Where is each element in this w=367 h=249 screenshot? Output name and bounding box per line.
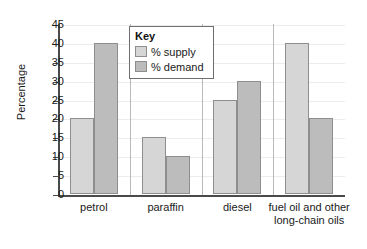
bar-supply — [70, 118, 94, 194]
category-separator — [273, 24, 274, 195]
y-tick-label-20: 20 — [24, 113, 64, 124]
bar-demand — [309, 118, 333, 194]
legend-title: Key — [135, 30, 208, 43]
y-tick-label-0: 0 — [24, 189, 64, 200]
legend-swatch-supply — [135, 46, 147, 57]
bar-demand — [94, 43, 118, 194]
y-tick-label-25: 25 — [24, 95, 64, 106]
y-tick-label-35: 35 — [24, 57, 64, 68]
legend-item-supply: % supply — [135, 44, 208, 59]
y-tick-label-15: 15 — [24, 132, 64, 143]
x-category-label-line: long-chain oils — [259, 214, 359, 227]
legend-item-demand: % demand — [135, 59, 208, 74]
legend-swatch-demand — [135, 61, 147, 72]
x-category-label: fuel oil and otherlong-chain oils — [259, 201, 359, 227]
y-tick-label-10: 10 — [24, 151, 64, 162]
bar-demand — [237, 81, 261, 194]
y-axis-title: Percentage — [15, 37, 27, 147]
bar-supply — [285, 43, 309, 194]
legend: Key % supply % demand — [129, 26, 214, 79]
bar-supply — [213, 100, 237, 194]
x-axis-line — [58, 195, 345, 197]
bar-chart: Percentage 454035302520151050 petrolpara… — [0, 0, 367, 249]
y-tick-label-30: 30 — [24, 76, 64, 87]
legend-label-demand: % demand — [151, 61, 204, 73]
bar-demand — [166, 156, 190, 194]
bar-supply — [142, 137, 166, 194]
x-category-label-line: fuel oil and other — [259, 201, 359, 214]
y-tick-label-40: 40 — [24, 38, 64, 49]
legend-label-supply: % supply — [151, 46, 196, 58]
y-tick-label-5: 5 — [24, 170, 64, 181]
y-tick-label-45: 45 — [24, 19, 64, 30]
